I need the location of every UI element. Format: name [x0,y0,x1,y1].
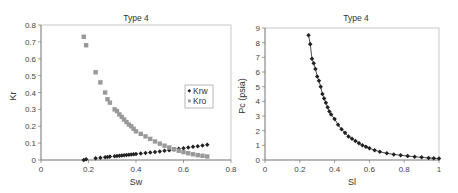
data-point [426,156,431,161]
data-point [398,153,403,158]
pc-x-ticks: 00.20.40.60.81 [263,160,442,174]
y-tick-label: 0 [256,156,261,165]
data-point [311,61,316,66]
y-tick-label: 3 [256,112,261,121]
y-tick-label: 9 [256,24,261,33]
data-point [167,145,171,149]
data-point [162,148,167,153]
data-point [153,150,158,155]
data-point [158,141,162,145]
pc-y-ticks: 0123456789 [256,24,265,165]
data-point [108,100,112,104]
y-tick-label: 0.3 [25,105,37,114]
y-tick-label: 8 [256,39,261,48]
data-point [196,153,200,157]
chart-canvas: Type 4 00.10.20.30.40.50.60.70.8 00.20.4… [0,0,458,193]
data-point [391,152,396,157]
pc-y-label: Pc (psia) [237,78,247,114]
y-tick-label: 0.7 [25,38,37,47]
y-tick-label: 0.6 [25,55,37,64]
kr-x-label: Sw [130,177,143,187]
x-tick-label: 0.6 [364,165,376,174]
x-tick-label: 0 [39,165,44,174]
data-point [200,154,204,158]
legend-label-krw: Krw [193,86,209,96]
y-tick-label: 4 [256,97,261,106]
y-tick-label: 0.4 [25,89,37,98]
data-point [186,151,190,155]
data-point [205,154,209,158]
x-tick-label: 0.4 [329,165,341,174]
kr-x-ticks: 00.20.40.60.8 [39,160,237,174]
data-point [315,74,320,79]
data-point [134,129,138,133]
data-point [138,151,143,156]
data-point [143,134,147,138]
data-point [181,146,186,151]
data-point [177,149,181,153]
data-point [98,80,102,84]
data-point [200,143,205,148]
data-point [93,70,97,74]
data-point [412,155,417,160]
x-tick-label: 0.4 [130,165,142,174]
x-tick-label: 0 [263,165,268,174]
y-tick-label: 2 [256,127,261,136]
kr-chart: Type 4 00.10.20.30.40.50.60.70.8 00.20.4… [8,13,237,187]
kr-y-ticks: 00.10.20.30.40.50.60.70.8 [25,21,41,165]
kr-chart-title: Type 4 [123,13,149,23]
data-point [191,152,195,156]
pc-chart: Type 4 0123456789 00.20.40.60.81 Sl Pc (… [237,13,442,187]
data-point [84,43,88,47]
data-point [318,84,323,89]
data-point [317,79,322,84]
y-tick-label: 1 [256,141,261,150]
data-point [98,156,103,161]
y-tick-label: 0.8 [25,21,37,30]
kr-legend: Krw Kro [185,85,213,108]
data-point [385,151,390,156]
kr-y-label: Kr [8,91,18,100]
data-point [195,144,200,149]
kro-legend-marker-icon [188,100,191,103]
data-point [405,154,410,159]
y-tick-label: 7 [256,53,261,62]
data-point [310,57,315,62]
data-point [157,149,162,154]
data-point [320,92,325,97]
pc-chart-title: Type 4 [343,13,369,23]
data-point [306,33,311,38]
data-point [378,150,383,155]
data-point [172,147,176,151]
x-tick-label: 1 [437,165,442,174]
x-tick-label: 0.2 [83,165,95,174]
data-point [153,139,157,143]
y-tick-label: 0.5 [25,72,37,81]
legend-label-kro: Kro [193,96,207,106]
data-point [322,96,327,101]
data-point [205,143,210,148]
data-point [148,137,152,141]
data-point [308,42,313,47]
data-point [313,67,318,72]
data-point [325,105,330,110]
series-line [309,35,440,158]
data-point [324,101,329,106]
data-point [353,139,358,144]
data-point [350,136,355,141]
data-point [103,90,107,94]
data-point [148,150,153,155]
data-point [419,155,424,160]
pc-series [306,33,441,161]
data-point [143,151,148,156]
y-tick-label: 5 [256,83,261,92]
data-point [162,143,166,147]
y-tick-label: 0 [32,156,37,165]
data-point [139,132,143,136]
y-tick-label: 0.2 [25,122,37,131]
pc-x-label: Sl [348,177,356,187]
data-point [181,150,185,154]
data-point [357,141,362,146]
x-tick-label: 0.8 [399,165,411,174]
x-tick-label: 0.6 [178,165,190,174]
